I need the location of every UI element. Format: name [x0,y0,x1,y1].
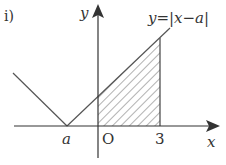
graph-figure: i) y y=|x−a| a O 3 x [0,0,226,165]
origin-label: O [102,130,114,148]
x-axis-label: x [207,133,216,151]
problem-label: i) [4,8,14,24]
y-axis-label: y [79,4,89,22]
tick-label-3: 3 [155,130,165,148]
equation-label: y=|x−a| [147,9,209,27]
left-branch [13,73,67,126]
tick-label-a: a [62,130,71,148]
shaded-region [98,38,160,126]
